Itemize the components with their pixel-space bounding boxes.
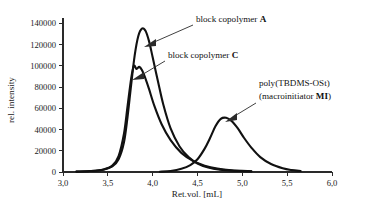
annotation-copolymer-c: block copolymer C [132,50,238,80]
annotation-macroinitiator-line2: (macroinitiator MI) [259,91,331,101]
y-axis-title: rel. intensity [6,77,16,123]
y-tick-label: 60000 [35,103,56,113]
x-tick-label: 5,0 [237,178,248,188]
y-tick-label: 40000 [35,125,56,135]
annotation-copolymer-a: block copolymer A [144,14,267,47]
y-tick-label: 80000 [35,82,56,92]
series-curve-2 [160,118,301,172]
x-tick-label: 5,5 [282,178,293,188]
x-tick-label: 3,5 [102,178,113,188]
y-tick-label: 120000 [30,40,56,50]
annotation-copolymer-a-arrowhead [144,39,156,47]
y-tick-label: 0 [52,167,56,177]
annotation-copolymer-c-arrowhead [132,72,144,80]
x-tick-label: 3,0 [58,178,69,188]
annotation-macroinitiator-line1: poly(TBDMS-OSt) [259,78,330,88]
y-axis-ticks: 020000400006000080000100000120000140000 [30,18,63,177]
chromatogram-figure: 020000400006000080000100000120000140000 … [0,0,368,209]
x-axis-title: Ret.vol. [mL] [172,189,222,199]
annotation-macroinitiator: poly(TBDMS-OSt) (macroinitiator MI) [225,78,331,122]
x-tick-label: 6,0 [327,178,338,188]
y-tick-label: 100000 [30,61,56,71]
gpc-chromatogram-chart: 020000400006000080000100000120000140000 … [0,0,368,209]
annotation-copolymer-a-leader [152,25,193,43]
x-axis-ticks: 3,03,54,04,55,05,56,0 [58,172,338,188]
y-tick-label: 140000 [30,18,56,28]
annotation-copolymer-c-label: block copolymer C [168,50,238,60]
x-tick-label: 4,0 [147,178,158,188]
x-tick-label: 4,5 [192,178,203,188]
y-tick-label: 20000 [35,146,56,156]
annotation-copolymer-a-label: block copolymer A [196,14,267,24]
